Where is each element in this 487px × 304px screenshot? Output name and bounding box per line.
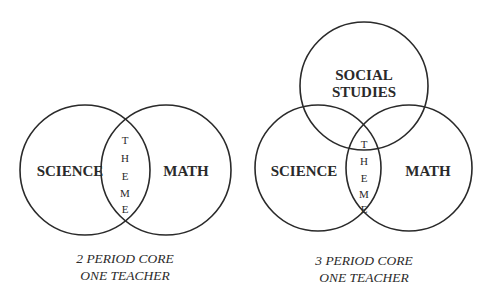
social-label: SOCIAL: [335, 67, 393, 83]
two-period-core-diagram: SCIENCE MATH T H E M E 2 PERIOD CORE ONE…: [20, 105, 231, 283]
caption-line-2: ONE TEACHER: [80, 268, 170, 283]
math-label: MATH: [163, 163, 209, 179]
theme-letter-e2: E: [122, 203, 129, 215]
theme-letter-e2: E: [361, 203, 368, 215]
theme-letter-e1: E: [361, 172, 368, 184]
math-label: MATH: [405, 163, 451, 179]
theme-letter-m: M: [359, 188, 369, 200]
three-period-core-diagram: SOCIAL STUDIES SCIENCE MATH T H E M E 3 …: [255, 22, 472, 285]
theme-letter-e1: E: [122, 170, 129, 182]
theme-letter-m: M: [120, 187, 130, 199]
core-curriculum-venn-diagrams: SCIENCE MATH T H E M E 2 PERIOD CORE ONE…: [0, 0, 487, 304]
caption-line-2: ONE TEACHER: [319, 270, 409, 285]
theme-letter-h: H: [121, 152, 129, 164]
theme-overlap-label: T H E M E: [120, 134, 130, 215]
theme-letter-h: H: [360, 155, 368, 167]
science-label: SCIENCE: [271, 163, 338, 179]
studies-label: STUDIES: [332, 84, 396, 100]
caption-line-1: 3 PERIOD CORE: [314, 253, 413, 268]
theme-letter-t: T: [122, 134, 129, 146]
science-label: SCIENCE: [37, 163, 104, 179]
theme-letter-t: T: [361, 138, 368, 150]
caption-line-1: 2 PERIOD CORE: [76, 251, 174, 266]
